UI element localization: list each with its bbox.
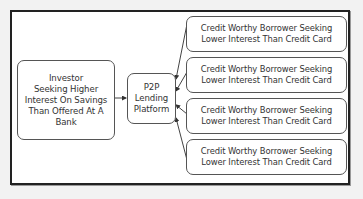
investor-line-2: Seeking Higher: [25, 84, 107, 95]
investor-line-5: Bank: [25, 117, 107, 128]
platform-line-2: Lending: [134, 93, 169, 104]
investor-node: Investor Seeking Higher Interest On Savi…: [17, 60, 115, 140]
borrower-line-2: Lower Interest Than Credit Card: [201, 34, 333, 45]
platform-line-1: P2P: [134, 82, 169, 93]
borrower-node: Credit Worthy Borrower Seeking Lower Int…: [186, 98, 347, 134]
borrower-line-1: Credit Worthy Borrower Seeking: [201, 64, 333, 75]
investor-line-3: Interest On Savings: [25, 95, 107, 106]
platform-line-3: Platform: [134, 104, 169, 115]
borrower-node: Credit Worthy Borrower Seeking Lower Int…: [186, 16, 347, 52]
borrower-line-2: Lower Interest Than Credit Card: [201, 75, 333, 86]
borrower-line-1: Credit Worthy Borrower Seeking: [201, 105, 333, 116]
investor-line-1: Investor: [25, 73, 107, 84]
borrower-line-1: Credit Worthy Borrower Seeking: [201, 23, 333, 34]
investor-line-4: Than Offered At A: [25, 106, 107, 117]
borrower-line-2: Lower Interest Than Credit Card: [201, 116, 333, 127]
borrower-line-2: Lower Interest Than Credit Card: [201, 157, 333, 168]
p2p-platform-node: P2P Lending Platform: [127, 73, 176, 124]
borrower-node: Credit Worthy Borrower Seeking Lower Int…: [186, 139, 347, 175]
borrower-node: Credit Worthy Borrower Seeking Lower Int…: [186, 57, 347, 93]
borrower-line-1: Credit Worthy Borrower Seeking: [201, 146, 333, 157]
